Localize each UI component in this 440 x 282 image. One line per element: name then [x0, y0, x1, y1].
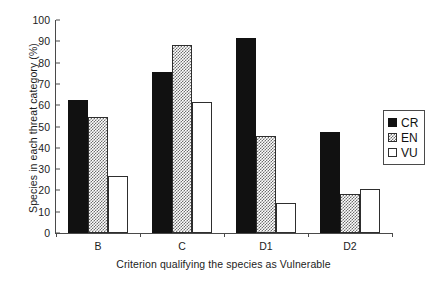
legend-swatch-vu — [388, 148, 397, 157]
y-tick-label: 60 — [38, 99, 56, 111]
bar-d1-cr — [236, 38, 256, 233]
x-tick-label-d1: D1 — [259, 240, 272, 252]
y-tick-mark — [56, 105, 60, 106]
bar-c-en — [172, 45, 192, 234]
x-tick-label-b: B — [94, 240, 101, 252]
x-tick-mark — [140, 233, 141, 237]
plot-area: 0102030405060708090100BCD1D2 — [55, 20, 392, 234]
x-tick-label-d2: D2 — [343, 240, 356, 252]
y-tick-mark — [56, 211, 60, 212]
y-tick-label: 70 — [38, 78, 56, 90]
y-tick-label: 20 — [38, 184, 56, 196]
y-axis-label: Species in each threat category (%) — [27, 18, 39, 238]
y-tick-label: 0 — [44, 227, 56, 239]
x-tick-label-c: C — [178, 240, 186, 252]
y-tick-mark — [56, 147, 60, 148]
y-tick-label: 50 — [38, 121, 56, 133]
x-axis-label: Criterion qualifying the species as Vuln… — [55, 258, 392, 270]
y-tick-mark — [56, 190, 60, 191]
legend-label-vu: VU — [401, 147, 418, 159]
y-tick-mark — [56, 169, 60, 170]
legend-swatch-cr — [388, 118, 397, 127]
y-tick-label: 100 — [32, 14, 56, 26]
bar-d2-cr — [320, 132, 340, 233]
y-tick-label: 10 — [38, 206, 56, 218]
legend-item-cr: CR — [388, 115, 418, 130]
y-tick-label: 40 — [38, 142, 56, 154]
y-tick-label: 90 — [38, 35, 56, 47]
y-tick-label: 80 — [38, 57, 56, 69]
bar-c-cr — [152, 72, 172, 233]
y-tick-mark — [56, 20, 60, 21]
bar-b-vu — [108, 176, 128, 234]
x-tick-mark — [224, 233, 225, 237]
y-tick-mark — [56, 83, 60, 84]
legend-swatch-en — [388, 133, 397, 142]
bar-d1-vu — [276, 203, 296, 233]
legend-item-en: EN — [388, 130, 418, 145]
y-tick-label: 30 — [38, 163, 56, 175]
legend-label-en: EN — [401, 132, 418, 144]
bar-d1-en — [256, 136, 276, 233]
y-tick-mark — [56, 126, 60, 127]
bar-d2-en — [340, 194, 360, 233]
bar-c-vu — [192, 102, 212, 233]
y-tick-mark — [56, 41, 60, 42]
legend-label-cr: CR — [401, 117, 418, 129]
chart-legend: CR EN VU — [383, 110, 425, 165]
x-tick-mark — [392, 233, 393, 237]
bar-b-en — [88, 117, 108, 233]
bar-chart-figure: Species in each threat category (%) 0102… — [0, 0, 440, 282]
x-tick-mark — [56, 233, 57, 237]
bar-b-cr — [68, 100, 88, 233]
bar-d2-vu — [360, 189, 380, 233]
legend-item-vu: VU — [388, 145, 418, 160]
y-tick-mark — [56, 62, 60, 63]
x-tick-mark — [308, 233, 309, 237]
